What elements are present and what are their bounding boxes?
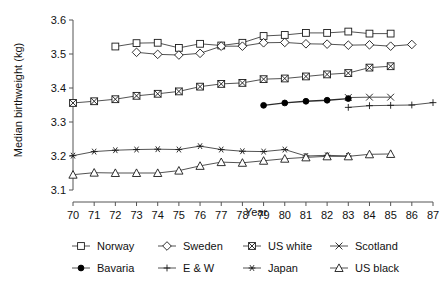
- marker-crossed-square: [154, 90, 161, 97]
- x-tick-label: 77: [215, 209, 227, 221]
- series-norway: [112, 28, 394, 51]
- marker-crossed-square: [281, 75, 288, 82]
- marker-filled-circle: [303, 98, 309, 104]
- chart-legend: NorwaySwedenUS whiteScotlandBavariaE & W…: [72, 240, 400, 274]
- marker-asterisk: [154, 146, 161, 152]
- x-tick-label: 82: [321, 209, 333, 221]
- y-tick-label: 3.4: [51, 82, 66, 94]
- marker-filled-circle: [282, 100, 288, 106]
- marker-crossed-square: [387, 63, 394, 70]
- x-tick-label: 85: [385, 209, 397, 221]
- marker-square: [345, 28, 352, 35]
- y-tick-label: 3.2: [51, 150, 66, 162]
- legend-label: Norway: [97, 240, 135, 252]
- marker-crossed-square: [112, 96, 119, 103]
- marker-crossed-square: [218, 81, 225, 88]
- x-tick-label: 83: [342, 209, 354, 221]
- chart-figure: 3.13.23.33.43.53.6 707172737475767778798…: [0, 0, 443, 285]
- marker-plus: [345, 104, 352, 111]
- x-tick-label: 74: [152, 209, 164, 221]
- marker-asterisk: [197, 143, 204, 149]
- marker-crossed-square: [249, 243, 256, 250]
- y-tick-label: 3.6: [51, 14, 66, 26]
- marker-square: [197, 40, 204, 47]
- x-tick-label: 84: [363, 209, 375, 221]
- marker-plus: [387, 102, 394, 109]
- legend-item-e-w[interactable]: E & W: [158, 262, 215, 274]
- legend-item-sweden[interactable]: Sweden: [158, 240, 223, 252]
- legend-label: US black: [355, 262, 400, 274]
- marker-filled-circle: [261, 102, 267, 108]
- series-e-w: [345, 99, 437, 111]
- x-tick-label: 80: [279, 209, 291, 221]
- y-tick-label: 3.5: [51, 48, 66, 60]
- marker-asterisk: [91, 149, 98, 155]
- marker-diamond: [163, 242, 172, 251]
- marker-crossed-square: [175, 88, 182, 95]
- marker-crossed-square: [70, 100, 77, 107]
- marker-plus: [430, 99, 437, 106]
- y-tick-label: 3.3: [51, 116, 66, 128]
- marker-asterisk: [239, 148, 246, 154]
- marker-crossed-square: [324, 71, 331, 78]
- axes: [73, 20, 433, 202]
- marker-diamond: [323, 40, 332, 49]
- series-sweden: [132, 38, 416, 59]
- series-scotland: [345, 94, 394, 101]
- marker-crossed-square: [303, 73, 310, 80]
- marker-square: [281, 32, 288, 39]
- legend-item-japan[interactable]: Japan: [243, 262, 298, 274]
- series-path: [73, 154, 391, 175]
- marker-square: [387, 30, 394, 37]
- marker-filled-circle: [324, 97, 330, 103]
- marker-square: [78, 243, 85, 250]
- marker-crossed-square: [197, 83, 204, 90]
- marker-diamond: [153, 50, 162, 59]
- marker-crossed-square: [260, 76, 267, 83]
- legend-item-norway[interactable]: Norway: [72, 240, 135, 252]
- marker-diamond: [408, 40, 417, 49]
- legend-label: Sweden: [183, 240, 223, 252]
- marker-diamond: [175, 51, 184, 60]
- x-tick-label: 72: [109, 209, 121, 221]
- legend-label: Bavaria: [97, 262, 135, 274]
- marker-asterisk: [281, 147, 288, 153]
- marker-diamond: [365, 41, 374, 50]
- marker-diamond: [280, 38, 289, 47]
- x-tick-label: 76: [194, 209, 206, 221]
- legend-label: Scotland: [355, 240, 398, 252]
- marker-plus: [164, 265, 171, 272]
- legend-item-us-black[interactable]: US black: [330, 262, 400, 274]
- marker-asterisk: [249, 265, 256, 271]
- marker-crossed-square: [345, 70, 352, 77]
- marker-square: [112, 43, 119, 50]
- legend-item-scotland[interactable]: Scotland: [330, 240, 398, 252]
- legend-item-bavaria[interactable]: Bavaria: [72, 262, 135, 274]
- legend-label: US white: [268, 240, 312, 252]
- marker-plus: [366, 102, 373, 109]
- x-tick-label: 70: [67, 209, 79, 221]
- marker-filled-circle: [78, 265, 84, 271]
- marker-diamond: [132, 48, 141, 57]
- x-tick-label: 73: [130, 209, 142, 221]
- series-path: [73, 66, 391, 103]
- legend-item-us-white[interactable]: US white: [243, 240, 312, 252]
- marker-square: [154, 39, 161, 46]
- data-series-group: [69, 28, 437, 178]
- marker-asterisk: [260, 149, 267, 155]
- marker-square: [366, 30, 373, 37]
- marker-crossed-square: [91, 98, 98, 105]
- x-axis-title: Year: [245, 206, 268, 218]
- marker-square: [303, 30, 310, 37]
- series-bavaria: [261, 96, 352, 109]
- x-tick-label: 87: [427, 209, 439, 221]
- y-axis-title: Median birthweight (kg): [12, 43, 24, 157]
- marker-diamond: [302, 40, 311, 49]
- series-japan: [70, 143, 352, 159]
- y-tick-label: 3.1: [51, 184, 66, 196]
- marker-diamond: [344, 41, 353, 50]
- x-tick-label: 71: [88, 209, 100, 221]
- marker-asterisk: [218, 147, 225, 153]
- x-tick-label: 86: [406, 209, 418, 221]
- marker-filled-circle: [345, 96, 351, 102]
